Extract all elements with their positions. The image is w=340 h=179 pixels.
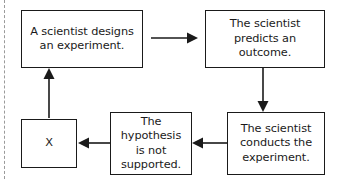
flowchart-canvas: A scientist designs an experiment. The s… (0, 0, 340, 179)
flow-box-conduct-label: The scientist conducts the experiment. (236, 122, 316, 165)
arrow-right-icon-design-to-predict (151, 31, 199, 45)
flow-box-design-label: A scientist designs an experiment. (26, 25, 138, 54)
flow-box-hypothesis-label: The hypothesis is not supported. (111, 115, 191, 173)
flow-box-conduct: The scientist conducts the experiment. (227, 112, 325, 175)
arrow-up-icon-x-to-design (42, 68, 56, 119)
flow-box-x: X (21, 119, 77, 168)
flow-box-x-label: X (41, 136, 57, 150)
flow-box-predict-label: The scientist predicts an outcome. (226, 17, 305, 60)
left-margin-dashed-rule (4, 0, 5, 179)
flow-box-hypothesis: The hypothesis is not supported. (110, 112, 192, 175)
flow-box-design: A scientist designs an experiment. (21, 10, 143, 68)
arrow-left-icon-conduct-to-hypothesis (192, 136, 228, 150)
arrow-down-icon-predict-to-conduct (256, 68, 270, 113)
arrow-left-icon-hypothesis-to-x (78, 136, 111, 150)
flow-box-predict: The scientist predicts an outcome. (205, 10, 325, 68)
